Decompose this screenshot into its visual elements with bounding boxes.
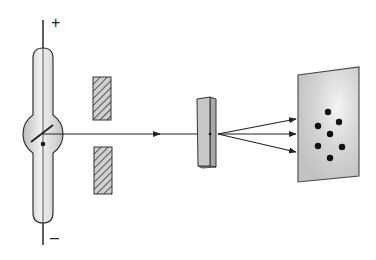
- collimator-slit-lower: [94, 147, 112, 194]
- diffracted-rays: [218, 119, 296, 152]
- negative-terminal-label: –: [50, 230, 59, 246]
- positive-terminal-label: +: [51, 15, 60, 31]
- detector-screen: [298, 67, 359, 182]
- xray-tube: [23, 20, 63, 245]
- xray-diffraction-diagram: [0, 0, 376, 260]
- crystal: [197, 97, 216, 168]
- cathode-filament: [41, 142, 46, 147]
- collimator-slit-upper: [93, 77, 111, 120]
